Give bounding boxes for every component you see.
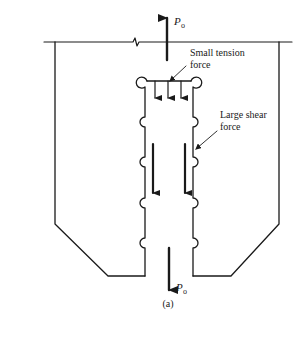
shear-leader-line	[196, 131, 217, 149]
tension-label-line1: Small tension	[190, 47, 245, 58]
left-concrete-block	[55, 42, 145, 276]
shear-label-line1: Large shear	[220, 109, 267, 120]
load-bottom-symbol: P	[175, 281, 183, 293]
tension-leader-line	[170, 66, 186, 81]
tension-annotation: Small tension force	[170, 47, 245, 81]
tension-label-line2: force	[190, 59, 211, 70]
shear-label-line2: force	[220, 121, 241, 132]
load-arrow-top: P o	[167, 15, 185, 60]
load-arrow-bottom: P o	[169, 248, 187, 296]
shear-force-arrows	[153, 144, 185, 193]
shear-annotation: Large shear force	[196, 109, 267, 149]
tension-force-arrows	[155, 81, 181, 98]
load-top-subscript: o	[181, 21, 185, 30]
load-bottom-subscript: o	[183, 287, 187, 296]
right-concrete-block	[193, 42, 279, 276]
load-top-symbol: P	[173, 15, 181, 27]
figure-caption: (a)	[162, 298, 173, 310]
anchor-pullout-diagram: P o P o Small tension force Large shear …	[0, 0, 300, 338]
slot-right-edge	[191, 77, 202, 276]
slot-left-edge	[136, 77, 147, 276]
